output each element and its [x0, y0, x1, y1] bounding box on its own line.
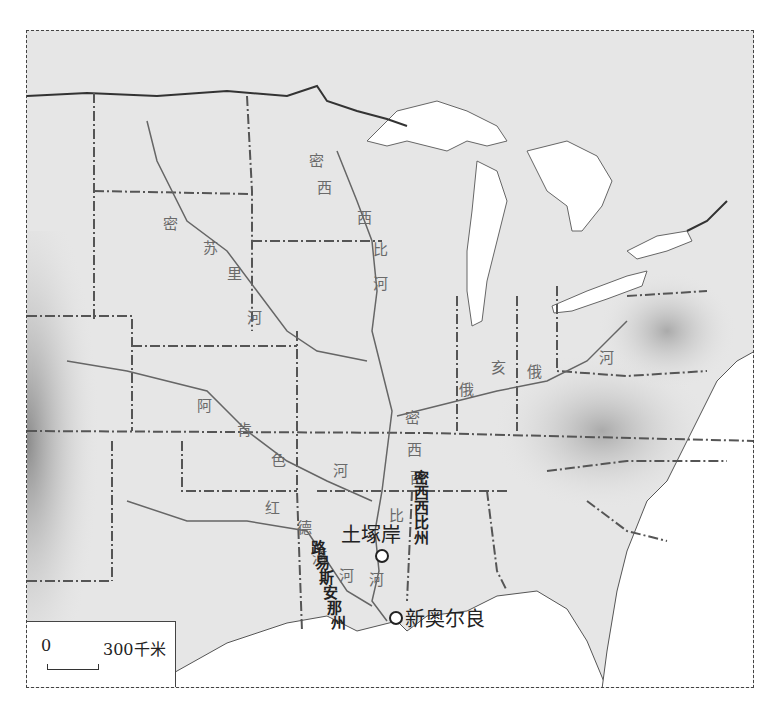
- arkansas-river-label-4: 河: [333, 464, 348, 479]
- scale-bar: [47, 664, 99, 670]
- scale-zero-label: 0: [41, 636, 51, 655]
- red-lower-label-1: 德: [297, 521, 312, 536]
- mississippi-label-1: 密: [309, 154, 324, 169]
- missouri-river-label-2: 苏: [203, 241, 218, 256]
- ohio-river-label-1: 俄: [459, 383, 474, 398]
- city-label-natchez: 土塚岸: [341, 525, 401, 545]
- lower-mississippi-label-1: 密: [405, 411, 420, 426]
- mississippi-label-2: 西: [317, 181, 332, 196]
- ohio-river-label-4: 河: [599, 351, 614, 366]
- mississippi-label-5: 河: [373, 277, 388, 292]
- lower-mississippi-label-2: 西: [407, 443, 422, 458]
- missouri-river-label-1: 密: [163, 217, 178, 232]
- relief-map: [27, 31, 754, 688]
- scale-max-label: 300千米: [103, 636, 166, 660]
- ohio-river-label-2: 亥: [491, 361, 506, 376]
- louisiana-state-label: 路 易 斯 安 那 州: [311, 541, 346, 631]
- arkansas-river-label-3: 色: [271, 453, 286, 468]
- mississippi-state-label: 密 西 西 比 州: [413, 471, 429, 546]
- map-frame: 密 苏 里 河 密 西 西 比 河 密 西 西 比 河 阿 肯 色 河 红 河 …: [26, 30, 754, 688]
- mississippi-label-3: 西: [357, 211, 372, 226]
- lower-mississippi-label-5: 河: [369, 573, 384, 588]
- lower-mississippi-label-4: 比: [389, 509, 404, 524]
- mississippi-label-4: 比: [373, 243, 388, 258]
- arkansas-river-label-1: 阿: [197, 399, 212, 414]
- city-marker-natchez: [375, 549, 389, 563]
- missouri-river-label-4: 河: [247, 311, 262, 326]
- ohio-river-label-3: 俄: [527, 365, 542, 380]
- scale-bar-box: 0 300千米: [27, 621, 176, 688]
- arkansas-river-label-2: 肯: [237, 423, 252, 438]
- red-river-label-1: 红: [265, 501, 280, 516]
- city-marker-new-orleans: [389, 611, 403, 625]
- city-label-new-orleans: 新奥尔良: [405, 609, 485, 629]
- missouri-river-label-3: 里: [227, 267, 242, 282]
